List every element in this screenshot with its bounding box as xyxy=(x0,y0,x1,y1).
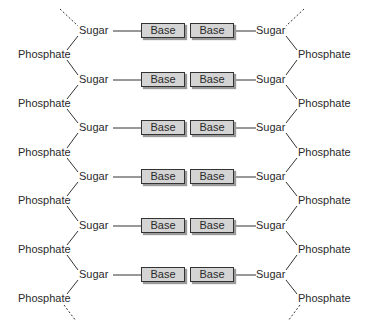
base-box-left: Base xyxy=(141,72,185,87)
sugar-label-left: Sugar xyxy=(79,219,108,232)
sugar-label-right: Sugar xyxy=(256,24,285,37)
phosphate-label-right: Phosphate xyxy=(298,97,351,110)
phosphate-label-right: Phosphate xyxy=(298,292,351,305)
phosphate-label-right: Phosphate xyxy=(298,194,351,207)
base-box-left: Base xyxy=(141,218,185,233)
base-box-left: Base xyxy=(141,23,185,38)
sugar-label-left: Sugar xyxy=(79,268,108,281)
base-box-left: Base xyxy=(141,120,185,135)
phosphate-label-left: Phosphate xyxy=(18,243,71,256)
base-box-left: Base xyxy=(141,267,185,282)
phosphate-label-right: Phosphate xyxy=(298,48,351,61)
sugar-label-left: Sugar xyxy=(79,121,108,134)
base-box-right: Base xyxy=(190,120,234,135)
phosphate-label-left: Phosphate xyxy=(18,146,71,159)
phosphate-label-right: Phosphate xyxy=(298,146,351,159)
phosphate-label-left: Phosphate xyxy=(18,194,71,207)
sugar-label-right: Sugar xyxy=(256,121,285,134)
sugar-label-right: Sugar xyxy=(256,170,285,183)
sugar-label-right: Sugar xyxy=(256,73,285,86)
sugar-label-left: Sugar xyxy=(79,24,108,37)
base-box-right: Base xyxy=(190,23,234,38)
base-box-left: Base xyxy=(141,169,185,184)
phosphate-label-left: Phosphate xyxy=(18,48,71,61)
base-box-right: Base xyxy=(190,72,234,87)
sugar-label-right: Sugar xyxy=(256,268,285,281)
phosphate-label-right: Phosphate xyxy=(298,243,351,256)
sugar-label-left: Sugar xyxy=(79,73,108,86)
base-box-right: Base xyxy=(190,218,234,233)
sugar-label-left: Sugar xyxy=(79,170,108,183)
base-box-right: Base xyxy=(190,169,234,184)
sugar-label-right: Sugar xyxy=(256,219,285,232)
phosphate-label-left: Phosphate xyxy=(18,292,71,305)
phosphate-label-left: Phosphate xyxy=(18,97,71,110)
base-box-right: Base xyxy=(190,267,234,282)
